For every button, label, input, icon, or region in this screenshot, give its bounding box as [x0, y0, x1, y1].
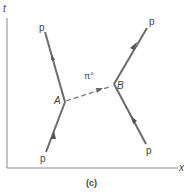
proton-line-a-in	[46, 102, 65, 152]
vertex-a-label: A	[53, 95, 61, 106]
arrow-icon	[131, 116, 137, 124]
particle-label: p	[40, 153, 46, 164]
arrow-icon	[96, 88, 103, 93]
figure-caption: (c)	[86, 178, 97, 188]
particle-label: p	[39, 22, 45, 33]
pion-label: π°	[84, 71, 94, 81]
feynman-diagram: t x p p p p A B π° (c)	[0, 0, 184, 192]
t-axis-label: t	[3, 3, 7, 14]
proton-line-a-out	[45, 32, 65, 102]
proton-line-b-out	[114, 28, 147, 84]
particle-label: p	[146, 145, 152, 156]
particle-label: p	[149, 16, 155, 27]
proton-line-b-in	[114, 84, 146, 144]
vertex-b-label: B	[117, 80, 124, 91]
diagram-canvas: t x p p p p A B π° (c)	[0, 0, 184, 192]
pion-line	[66, 86, 112, 101]
x-axis-label: x	[178, 162, 184, 173]
